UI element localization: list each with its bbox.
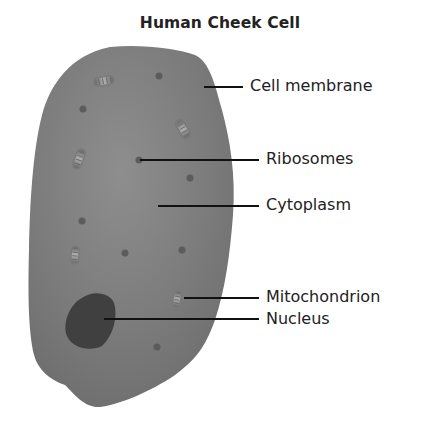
label-ribosomes: Ribosomes xyxy=(266,149,353,168)
label-nucleus: Nucleus xyxy=(266,309,330,328)
cell-diagram xyxy=(0,0,440,441)
label-mitochondrion: Mitochondrion xyxy=(266,287,380,306)
label-cytoplasm: Cytoplasm xyxy=(266,195,351,214)
label-cell-membrane: Cell membrane xyxy=(250,76,373,95)
cell-membrane-shape xyxy=(29,46,234,407)
